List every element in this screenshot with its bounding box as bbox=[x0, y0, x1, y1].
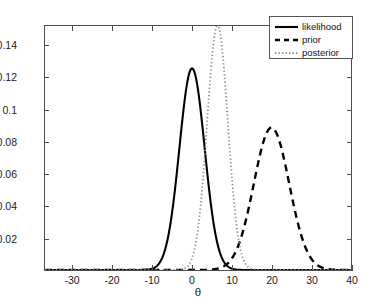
x-tick-label: 10 bbox=[226, 274, 238, 286]
y-tick-mark bbox=[44, 142, 49, 143]
x-tick-mark bbox=[312, 265, 313, 271]
legend-item-prior: prior bbox=[274, 33, 349, 46]
x-tick-label: 30 bbox=[306, 274, 318, 286]
y-tick-mark bbox=[44, 45, 49, 46]
legend: likelihood prior posterior bbox=[269, 16, 353, 59]
x-axis-label: θ bbox=[195, 286, 201, 298]
figure: 0.020.040.060.080.10.120.14 -30-20-10010… bbox=[0, 0, 373, 308]
series-line-prior bbox=[45, 128, 351, 270]
legend-label: prior bbox=[302, 35, 321, 45]
y-tick-label: 0.1 bbox=[2, 104, 17, 116]
legend-label: likelihood bbox=[302, 22, 342, 32]
y-tick-mark-right bbox=[347, 239, 352, 240]
y-tick-mark bbox=[44, 239, 49, 240]
y-tick-mark bbox=[44, 206, 49, 207]
plot-area bbox=[44, 25, 352, 271]
y-tick-mark-right bbox=[347, 174, 352, 175]
curve-layer bbox=[45, 26, 351, 270]
legend-swatch-dashed-line-icon bbox=[274, 35, 299, 45]
x-tick-label: -20 bbox=[104, 274, 119, 286]
y-tick-mark bbox=[44, 110, 49, 111]
x-tick-mark bbox=[232, 265, 233, 271]
y-tick-label: 0.04 bbox=[0, 200, 17, 212]
y-tick-label: 0.02 bbox=[0, 233, 17, 245]
y-tick-mark bbox=[44, 174, 49, 175]
x-tick-mark-top bbox=[192, 25, 193, 31]
x-tick-label: -30 bbox=[64, 274, 79, 286]
x-tick-label: -10 bbox=[144, 274, 159, 286]
x-tick-mark-top bbox=[72, 25, 73, 31]
x-tick-mark bbox=[72, 265, 73, 271]
x-tick-mark-top bbox=[152, 25, 153, 31]
y-tick-mark-right bbox=[347, 206, 352, 207]
y-tick-mark-right bbox=[347, 110, 352, 111]
y-tick-label: 0.06 bbox=[0, 168, 17, 180]
x-tick-label: 40 bbox=[346, 274, 358, 286]
legend-item-likelihood: likelihood bbox=[274, 20, 349, 33]
y-tick-mark bbox=[44, 77, 49, 78]
series-line-posterior bbox=[45, 26, 351, 270]
legend-label: posterior bbox=[302, 48, 339, 58]
legend-item-posterior: posterior bbox=[274, 46, 349, 59]
y-tick-mark-right bbox=[347, 142, 352, 143]
legend-swatch-dotted-line-icon bbox=[274, 48, 299, 58]
x-tick-mark bbox=[152, 265, 153, 271]
x-tick-mark-top bbox=[112, 25, 113, 31]
series-line-likelihood bbox=[45, 68, 351, 270]
y-tick-label: 0.14 bbox=[0, 39, 17, 51]
y-tick-label: 0.12 bbox=[0, 71, 17, 83]
x-tick-label: 0 bbox=[189, 274, 195, 286]
x-tick-mark-top bbox=[232, 25, 233, 31]
y-tick-label: 0.08 bbox=[0, 136, 17, 148]
x-tick-mark bbox=[112, 265, 113, 271]
x-tick-mark bbox=[352, 265, 353, 271]
x-tick-label: 20 bbox=[266, 274, 278, 286]
x-tick-mark bbox=[272, 265, 273, 271]
x-tick-mark bbox=[192, 265, 193, 271]
legend-swatch-solid-line-icon bbox=[274, 22, 299, 32]
y-tick-mark-right bbox=[347, 77, 352, 78]
